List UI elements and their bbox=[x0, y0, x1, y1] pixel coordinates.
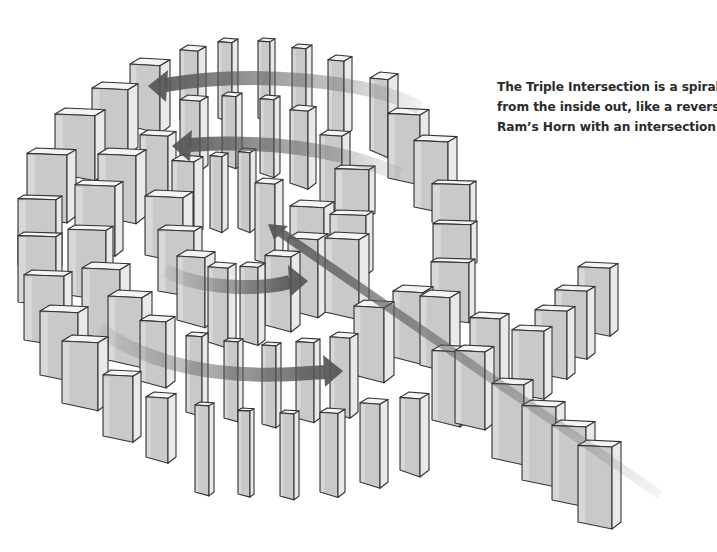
domino bbox=[210, 152, 228, 233]
domino bbox=[208, 262, 236, 348]
domino bbox=[262, 342, 281, 428]
figure-caption: The Triple Intersection is a spiral from… bbox=[497, 77, 712, 137]
domino bbox=[400, 392, 429, 477]
domino bbox=[320, 408, 345, 497]
caption-line-3: Ram’s Horn with an intersection. bbox=[497, 117, 712, 137]
domino bbox=[103, 370, 141, 442]
caption-line-1: The Triple Intersection is a spiral bbox=[497, 77, 712, 97]
domino bbox=[238, 148, 256, 233]
domino bbox=[354, 300, 394, 383]
domino bbox=[146, 392, 176, 463]
domino bbox=[62, 335, 108, 411]
domino bbox=[238, 408, 254, 497]
domino bbox=[260, 95, 280, 178]
caption-line-2: from the inside out, like a reverse bbox=[497, 97, 712, 117]
domino bbox=[280, 410, 299, 500]
domino bbox=[195, 402, 214, 496]
domino bbox=[240, 262, 265, 345]
domino bbox=[360, 398, 388, 488]
domino bbox=[328, 55, 352, 136]
